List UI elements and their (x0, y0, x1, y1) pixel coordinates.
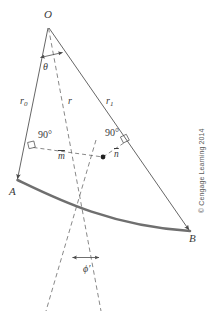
label-radius-r1-subscript: 1 (110, 100, 114, 108)
midpoint-dot (101, 155, 106, 160)
label-right-angle-right: 90° (105, 128, 119, 138)
label-radius-r1: r1 (106, 96, 113, 108)
label-radius-r0-subscript: 0 (24, 100, 28, 108)
segment-m-dashed (34, 148, 104, 158)
label-angle-phi-prime: ϕ′ (83, 264, 90, 274)
label-point-a: A (9, 186, 16, 197)
label-vector-m: m (58, 152, 65, 162)
catenary-curve (18, 180, 191, 231)
radius-r1-line (49, 28, 189, 230)
label-angle-theta: θ (43, 62, 48, 72)
right-angle-marker-left (28, 141, 36, 149)
theta-angle-arrow (41, 53, 63, 58)
phi-left-dashed-line (46, 140, 96, 311)
label-radius-r0: r0 (20, 96, 27, 108)
label-vector-n: n (114, 150, 119, 160)
label-right-angle-left: 90° (38, 130, 52, 140)
label-point-o: O (44, 9, 52, 20)
label-radius-r: r (68, 96, 72, 106)
copyright-notice: © Cengage Learning 2014 (198, 121, 205, 213)
label-point-b: B (189, 233, 196, 244)
figure-container: O A B r0 r r1 θ ϕ′ 90° 90° m n © Cengage… (0, 0, 219, 319)
radius-r-dashed-line (49, 28, 102, 311)
geometry-diagram-svg (0, 0, 219, 319)
